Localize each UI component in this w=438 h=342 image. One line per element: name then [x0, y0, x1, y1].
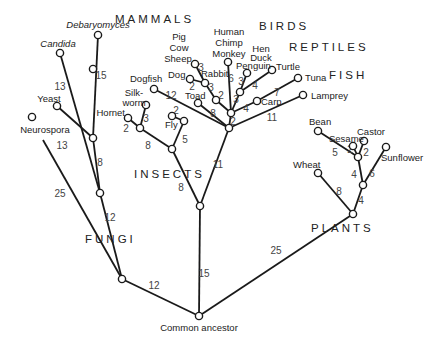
edge-weight: 2 [363, 147, 369, 158]
taxon-label: Dogfish [130, 73, 162, 84]
node-fungi-base [118, 275, 125, 282]
edge-weight: 11 [213, 159, 224, 170]
node-wheat [314, 169, 321, 176]
edge-weight: 2 [123, 123, 129, 134]
edge-weight: 13 [56, 140, 68, 151]
taxon-label: Yeast [37, 93, 61, 104]
tree-edge [199, 206, 200, 316]
taxon-label: Bean [309, 116, 331, 127]
node-dog [186, 75, 193, 82]
taxon-label: Lamprey [311, 90, 348, 101]
edge-weight: 6 [228, 73, 234, 84]
edge-weight: 8 [210, 108, 216, 119]
node-plant-base [349, 210, 356, 217]
edge-weight: 15 [198, 268, 210, 279]
edge-weight: 3 [238, 76, 244, 87]
node-animal-base [196, 202, 203, 209]
edge-weight: 15 [95, 70, 107, 81]
group-label-insects: INSECTS [134, 168, 205, 180]
taxon-label: Penguin [236, 60, 271, 71]
taxon-label: Turtle [276, 61, 300, 72]
taxon-label: Human [214, 26, 245, 37]
taxon-label: Carp [261, 96, 282, 107]
edge-weight: 8 [145, 140, 151, 151]
taxon-label: Toad [185, 90, 206, 101]
taxon-label: Pig [172, 31, 186, 42]
taxon-label: Cow [169, 42, 188, 53]
taxon-label: Chimp [215, 37, 242, 48]
taxon-label: Sheep [164, 53, 191, 64]
taxon-label: Wheat [293, 159, 321, 170]
group-label-plants: PLANTS [311, 222, 374, 234]
taxon-label: Fly [165, 119, 178, 130]
node-fly-node [180, 117, 187, 124]
node-dogfish [150, 85, 157, 92]
node-root [195, 312, 202, 319]
phylogenetic-tree: 1215251225813151381185232212811263473323… [0, 0, 438, 342]
edge-weight: 25 [54, 188, 66, 199]
taxon-label: Castor [357, 126, 385, 137]
edge-weight: 3 [143, 113, 149, 124]
node-bean [314, 127, 321, 134]
edge-weight: 25 [270, 245, 282, 256]
node-mammal-upper [201, 79, 208, 86]
group-label-mammals: MAMMALS [115, 13, 194, 25]
node-fungi-b [89, 134, 96, 141]
edge-weight: 13 [54, 81, 66, 92]
node-hymen-node [136, 124, 143, 131]
tree-edge [122, 279, 199, 316]
edge-weight: 6 [369, 168, 375, 179]
taxon-label: Tuna [305, 72, 327, 83]
node-debaryomyces [94, 31, 101, 38]
edge-weight: 4 [351, 169, 357, 180]
edge-weight: 11 [267, 112, 278, 123]
taxon-label: worm [121, 97, 145, 108]
edge-weight: 12 [104, 212, 116, 223]
node-plant-b [354, 153, 361, 160]
edge-weight: 5 [332, 147, 338, 158]
edge-weight: 8 [336, 186, 342, 197]
taxon-label: Monkey [212, 48, 246, 59]
node-monkey [224, 58, 231, 65]
taxon-label: Rabbit [201, 68, 229, 79]
group-label-birds: BIRDS [259, 20, 309, 32]
node-lamprey [299, 91, 306, 98]
edge-weight: 4 [358, 195, 364, 206]
node-fungi-a [96, 189, 103, 196]
node-vert-a [227, 109, 234, 116]
edge-weight: 12 [148, 280, 160, 291]
tree-edge [93, 35, 98, 138]
edge-weight: 8 [178, 182, 184, 193]
taxon-label: Dog [168, 69, 185, 80]
taxon-label: Candida [40, 38, 75, 49]
tree-edge [43, 140, 122, 279]
group-label-fungi: FUNGI [85, 233, 136, 245]
node-sunflower [382, 143, 389, 150]
node-neurospora [28, 113, 35, 120]
taxon-label: Hornet [96, 107, 125, 118]
node-sheep [191, 60, 198, 67]
edge-weight: 4 [243, 103, 249, 114]
node-mammal-node [212, 96, 219, 103]
group-label-fish: FISH [329, 69, 367, 81]
node-bird-node [236, 88, 243, 95]
node-hornet [124, 114, 131, 121]
node-plant-a [359, 181, 366, 188]
edge-weight: 5 [182, 134, 188, 145]
taxon-label: Neurospora [20, 124, 70, 135]
taxon-label: Sunflower [381, 152, 423, 163]
node-vert-base [225, 124, 232, 131]
node-tuna [294, 74, 301, 81]
node-candida [56, 49, 63, 56]
node-insect-node [168, 145, 175, 152]
node-carp [253, 97, 260, 104]
root-label: Common ancestor [160, 322, 238, 333]
node-insects [89, 65, 96, 72]
edge-weight: 8 [97, 157, 103, 168]
edge-weight: 12 [165, 90, 177, 101]
group-label-reptiles: REPTILES [289, 41, 369, 53]
edge-weight: 4 [252, 80, 258, 91]
